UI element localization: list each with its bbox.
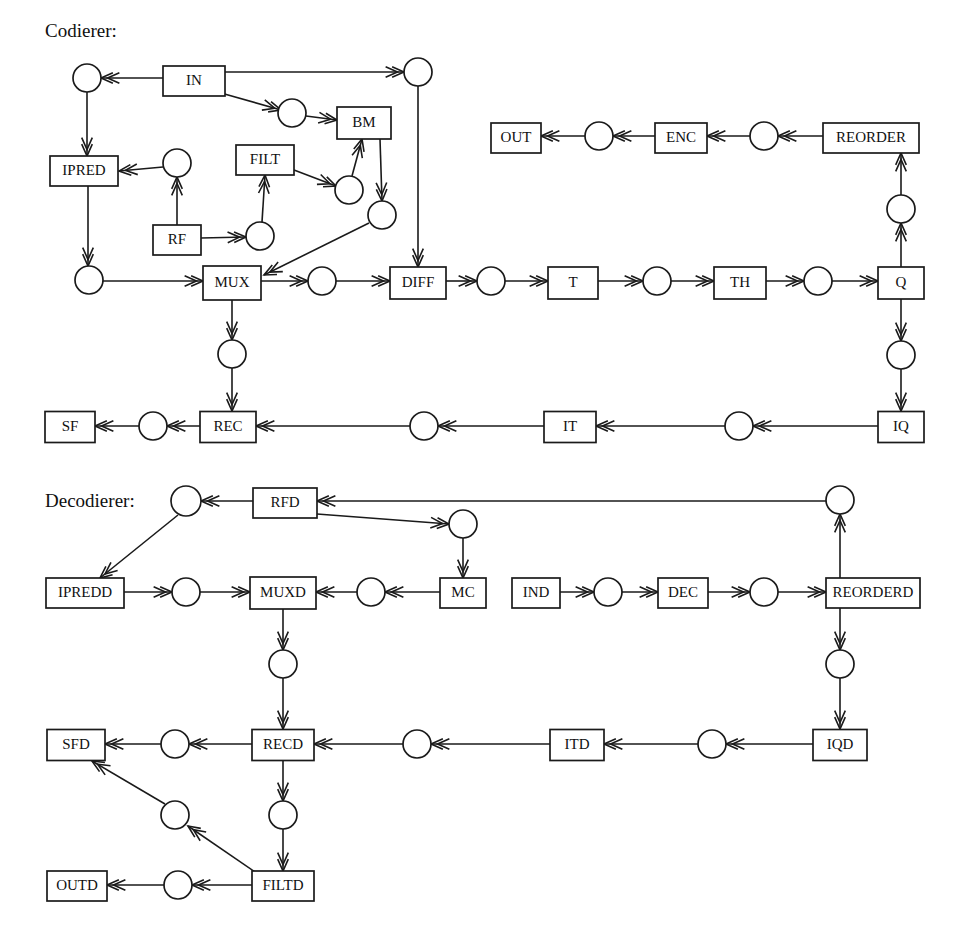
node-circle-c-iqd-itd[interactable]	[698, 730, 726, 758]
node-circle-c-in-left[interactable]	[73, 64, 101, 92]
edge-c_bm_out-to-mux	[264, 223, 369, 275]
edge-mux-to-c_rec_mux	[227, 300, 238, 340]
node-circle-c-th-q[interactable]	[804, 267, 832, 295]
edge-filtd-to-c_filtd_sfd	[188, 826, 258, 874]
edge-c_it_rec-to-rec	[256, 421, 410, 432]
node-box-ipred[interactable]: IPRED	[50, 156, 118, 186]
codec-block-diagram: INBMIPREDFILTRFMUXDIFFTTHQOUTENCREORDERS…	[0, 0, 963, 946]
node-box-th[interactable]: TH	[714, 267, 766, 299]
node-box-t[interactable]: T	[548, 267, 598, 299]
edge-muxd-to-c_muxd_recd	[278, 609, 289, 650]
edge-itd-to-c_itd_recd	[431, 739, 550, 750]
edge-c_rf_filt-to-filt	[259, 175, 270, 222]
node-box-rec[interactable]: REC	[200, 412, 256, 443]
node-box-sfd[interactable]: SFD	[47, 730, 105, 761]
node-circle-c-diff-t[interactable]	[477, 267, 505, 295]
node-circle-c-rec-sf[interactable]	[139, 412, 167, 440]
node-circle-c-mux-diff[interactable]	[308, 267, 336, 295]
node-circle-c-t-th[interactable]	[643, 267, 671, 295]
node-circle-c-muxd-recd[interactable]	[269, 650, 297, 678]
node-circle-c-ipred-in[interactable]	[163, 149, 191, 177]
edge-c_filtd_outd-to-outd	[107, 880, 164, 891]
node-circle-c-mc-muxd[interactable]	[357, 578, 385, 606]
edge-c_th_q-to-q	[832, 276, 878, 287]
node-box-mc[interactable]: MC	[440, 578, 486, 608]
node-box-ipredd[interactable]: IPREDD	[46, 578, 124, 608]
node-circle-c-bm-out[interactable]	[368, 201, 396, 229]
edge-c_iqd_itd-to-itd	[604, 739, 698, 750]
node-box-diff[interactable]: DIFF	[390, 267, 446, 299]
node-circle-c-ind-dec[interactable]	[594, 578, 622, 606]
node-box-it[interactable]: IT	[544, 412, 596, 443]
node-box-label: IPREDD	[58, 584, 112, 600]
node-circle-c-it-rec[interactable]	[410, 412, 438, 440]
node-box-outd[interactable]: OUTD	[47, 871, 107, 901]
node-box-label: SFD	[62, 736, 90, 752]
node-box-dec[interactable]: DEC	[658, 578, 708, 608]
node-circle-c-reorderd-up[interactable]	[826, 486, 854, 514]
node-box-in[interactable]: IN	[163, 66, 225, 96]
node-box-label: REC	[213, 418, 242, 434]
node-circle-c-reorderd-dn[interactable]	[826, 650, 854, 678]
node-circle-c-itd-recd[interactable]	[403, 730, 431, 758]
node-circle-c-iq-it[interactable]	[725, 412, 753, 440]
edge-c_ipred_in-to-ipred	[119, 164, 163, 175]
edge-rec-to-c_rec_sf	[167, 421, 200, 432]
node-circle-c-in-bm[interactable]	[278, 99, 306, 127]
node-box-label: DIFF	[402, 274, 435, 290]
edge-filtd-to-c_filtd_outd	[192, 880, 252, 891]
node-box-label: REORDERD	[833, 584, 914, 600]
node-box-out[interactable]: OUT	[491, 123, 541, 153]
node-circle-c-recd-filtd[interactable]	[269, 801, 297, 829]
node-circle-c-in-right[interactable]	[404, 58, 432, 86]
node-circle-c-reorder-enc[interactable]	[750, 122, 778, 150]
node-circle-c-filt-bm[interactable]	[335, 176, 363, 204]
node-circle-c-filtd-outd[interactable]	[164, 871, 192, 899]
node-box-mux[interactable]: MUX	[203, 266, 261, 300]
node-circle-c-rfd-left[interactable]	[171, 486, 201, 516]
edge-in-to-c_in_bm	[221, 93, 281, 112]
node-circle-c-dec-reord[interactable]	[750, 578, 778, 606]
edge-c_reorder_enc-to-enc	[707, 131, 750, 142]
edge-c_iq_it-to-it	[596, 421, 725, 432]
edge-iqd-to-c_iqd_itd	[726, 739, 813, 750]
node-box-label: RF	[168, 231, 186, 247]
node-box-label: REORDER	[836, 129, 906, 145]
node-box-label: FILTD	[262, 877, 303, 893]
node-circle-c-q-iq[interactable]	[887, 341, 915, 369]
node-box-itd[interactable]: ITD	[550, 730, 604, 761]
node-box-enc[interactable]: ENC	[655, 123, 707, 153]
node-circle-c-enc-out[interactable]	[585, 122, 613, 150]
node-circle-c-ipred-out[interactable]	[75, 266, 103, 294]
node-circle-c-rec-mux[interactable]	[218, 340, 246, 368]
node-box-rfd[interactable]: RFD	[253, 488, 317, 518]
edge-c_itd_recd-to-recd	[314, 739, 403, 750]
node-box-reorderd[interactable]: REORDERD	[826, 578, 920, 608]
edge-c_rec_mux-to-rec	[227, 368, 238, 411]
edge-ipredd-to-c_ipredd_mux	[124, 587, 172, 598]
node-circle-c-filtd-sfd[interactable]	[161, 801, 189, 829]
node-box-muxd[interactable]: MUXD	[250, 577, 316, 609]
node-box-rf[interactable]: RF	[153, 225, 201, 255]
node-box-bm[interactable]: BM	[337, 107, 391, 139]
node-box-label: RECD	[263, 736, 303, 752]
node-box-label: FILT	[250, 151, 280, 167]
node-box-recd[interactable]: RECD	[252, 730, 314, 761]
node-box-label: OUTD	[56, 877, 98, 893]
edge-ipred-to-c_ipred_out	[83, 186, 94, 266]
node-box-filtd[interactable]: FILTD	[252, 871, 314, 901]
node-box-label: IN	[186, 72, 202, 88]
node-box-iq[interactable]: IQ	[878, 412, 924, 443]
node-box-sf[interactable]: SF	[45, 412, 95, 443]
edge-c_ind_dec-to-dec	[622, 587, 658, 598]
node-circle-c-ipredd-mux[interactable]	[172, 578, 200, 606]
node-box-iqd[interactable]: IQD	[813, 730, 867, 761]
node-circle-c-rf-filt[interactable]	[246, 222, 274, 250]
node-circle-c-recd-sfd[interactable]	[161, 730, 189, 758]
node-box-q[interactable]: Q	[878, 267, 924, 299]
node-box-reorder[interactable]: REORDER	[823, 123, 919, 153]
node-circle-c-q-reorder[interactable]	[887, 195, 915, 223]
node-box-ind[interactable]: IND	[512, 578, 560, 608]
node-circle-c-rfd-mc[interactable]	[449, 510, 477, 538]
node-box-filt[interactable]: FILT	[236, 145, 294, 175]
